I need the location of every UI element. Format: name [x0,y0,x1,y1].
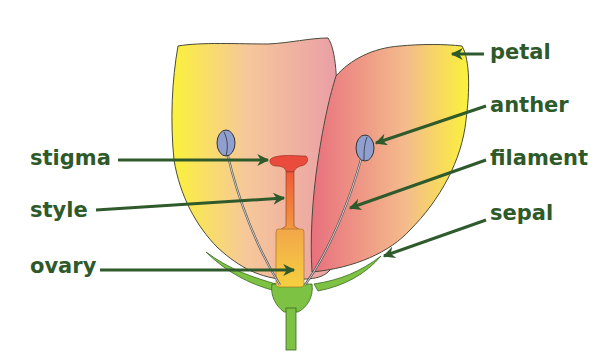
label-petal: petal [490,42,551,63]
label-style: style [30,200,88,221]
ovary-shape [276,229,304,287]
label-ovary: ovary [30,256,96,277]
label-stigma: stigma [30,148,111,169]
label-filament: filament [490,148,588,169]
label-sepal: sepal [490,203,553,224]
anther-left [217,130,235,156]
right-petal [311,45,468,273]
label-anther: anther [490,95,569,116]
flower-diagram: petal anther filament sepal stigma style… [0,0,615,357]
stem [286,308,296,350]
